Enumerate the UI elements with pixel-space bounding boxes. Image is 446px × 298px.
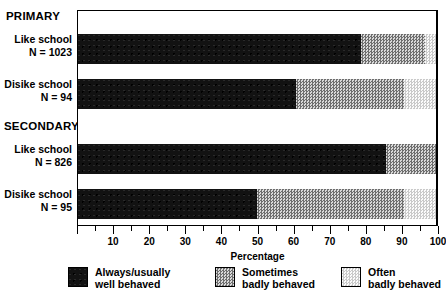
bar-segment-often-badly-behaved — [404, 189, 436, 219]
row-label-line1: Like school — [0, 33, 72, 46]
legend-label: Often badly behaved — [368, 266, 441, 290]
x-axis-major-tick — [221, 226, 222, 234]
bar-segment-always-usually-well-behaved — [78, 34, 361, 64]
row-label-line2: N = 94 — [0, 91, 72, 104]
bar-segment-often-badly-behaved — [404, 79, 436, 109]
row-label-secondary-like: Like school N = 826 — [0, 143, 72, 168]
bar-segment-sometimes-badly-behaved — [386, 144, 436, 174]
plot-area — [77, 10, 438, 226]
legend-swatch-black-icon — [68, 267, 88, 287]
row-label-line2: N = 95 — [0, 201, 72, 214]
legend-label-line1: Often — [368, 266, 441, 278]
x-axis — [77, 226, 438, 236]
legend-label-line1: Sometimes — [242, 266, 315, 278]
legend-item-often-badly-behaved: Often badly behaved — [341, 266, 441, 290]
stacked-bar-chart: PRIMARY SECONDARY Like school N = 1023 D… — [0, 0, 446, 298]
x-axis-minor-tick — [312, 226, 313, 231]
x-axis-tick-label: 30 — [180, 236, 191, 247]
bar-segment-sometimes-badly-behaved — [296, 79, 403, 109]
x-axis-major-tick — [330, 226, 331, 234]
row-label-line1: Disike school — [0, 78, 72, 91]
bar-row — [78, 79, 436, 109]
bar-row — [78, 34, 436, 64]
legend-swatch-medium-icon — [215, 267, 235, 287]
row-label-primary-dislike: Disike school N = 94 — [0, 78, 72, 103]
x-axis-tick-label: 90 — [396, 236, 407, 247]
x-axis-tick-label: 50 — [252, 236, 263, 247]
x-axis-tick-label: 40 — [216, 236, 227, 247]
row-label-primary-like: Like school N = 1023 — [0, 33, 72, 58]
x-axis-tick-label: 20 — [144, 236, 155, 247]
x-axis-minor-tick — [348, 226, 349, 231]
x-axis-minor-tick — [203, 226, 204, 231]
x-axis-major-tick — [149, 226, 150, 234]
x-axis-minor-tick — [384, 226, 385, 231]
legend-item-always-usually-well-behaved: Always/usually well behaved — [68, 266, 170, 290]
x-axis-major-tick — [258, 226, 259, 234]
legend-label-line2: badly behaved — [368, 278, 441, 290]
x-axis-title: Percentage — [77, 251, 438, 262]
x-axis-major-tick — [185, 226, 186, 234]
x-axis-minor-tick — [239, 226, 240, 231]
x-axis-tick-label: 100 — [430, 236, 446, 247]
category-axis-labels: PRIMARY SECONDARY Like school N = 1023 D… — [0, 0, 72, 226]
bar-row — [78, 189, 436, 219]
legend-item-sometimes-badly-behaved: Sometimes badly behaved — [215, 266, 315, 290]
x-axis-tick-label: 60 — [288, 236, 299, 247]
x-axis-major-tick — [77, 226, 78, 234]
x-axis-tick-label: 70 — [324, 236, 335, 247]
bar-segment-always-usually-well-behaved — [78, 79, 296, 109]
x-axis-minor-tick — [95, 226, 96, 231]
row-label-secondary-dislike: Disike school N = 95 — [0, 188, 72, 213]
group-heading-primary: PRIMARY — [6, 10, 78, 22]
row-label-line1: Disike school — [0, 188, 72, 201]
x-axis-major-tick — [294, 226, 295, 234]
legend-label: Sometimes badly behaved — [242, 266, 315, 290]
x-axis-major-tick — [438, 226, 439, 234]
bar-row — [78, 144, 436, 174]
x-axis-minor-tick — [131, 226, 132, 231]
x-axis-minor-tick — [276, 226, 277, 231]
legend-swatch-light-icon — [341, 267, 361, 287]
bar-segment-sometimes-badly-behaved — [361, 34, 425, 64]
bar-segment-always-usually-well-behaved — [78, 189, 257, 219]
bar-segment-sometimes-badly-behaved — [257, 189, 404, 219]
x-axis-tick-labels: 102030405060708090100 — [0, 236, 446, 250]
x-axis-tick-label: 10 — [108, 236, 119, 247]
x-axis-minor-tick — [420, 226, 421, 231]
legend-label: Always/usually well behaved — [95, 266, 170, 290]
legend: Always/usually well behaved Sometimes ba… — [68, 266, 446, 296]
legend-label-line2: well behaved — [95, 278, 170, 290]
x-axis-minor-tick — [167, 226, 168, 231]
row-label-line2: N = 826 — [0, 156, 72, 169]
x-axis-tick-label: 80 — [360, 236, 371, 247]
row-label-line2: N = 1023 — [0, 46, 72, 59]
legend-label-line2: badly behaved — [242, 278, 315, 290]
bar-segment-always-usually-well-behaved — [78, 144, 386, 174]
group-heading-secondary: SECONDARY — [4, 120, 76, 132]
x-axis-major-tick — [366, 226, 367, 234]
x-axis-major-tick — [113, 226, 114, 234]
legend-label-line1: Always/usually — [95, 266, 170, 278]
bar-segment-often-badly-behaved — [425, 34, 436, 64]
row-label-line1: Like school — [0, 143, 72, 156]
x-axis-major-tick — [402, 226, 403, 234]
